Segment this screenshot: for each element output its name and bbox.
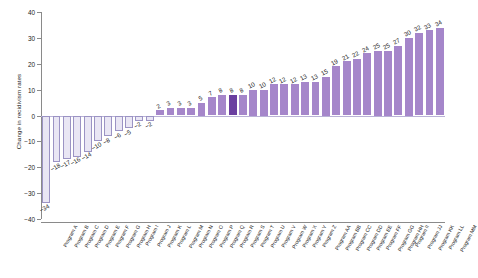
bar[interactable]: [353, 59, 361, 116]
bar[interactable]: [73, 116, 81, 157]
bar[interactable]: [125, 116, 133, 129]
bar-slot[interactable]: 33: [424, 12, 434, 219]
bar-value-label: 32: [413, 23, 422, 33]
bar-value-label: 2: [155, 102, 161, 110]
bar-slot[interactable]: −2: [134, 12, 144, 219]
bar[interactable]: [104, 116, 112, 137]
y-tick-label: −30: [24, 190, 35, 197]
bar-slot[interactable]: 22: [352, 12, 362, 219]
bar-slot[interactable]: 25: [372, 12, 382, 219]
bar[interactable]: [156, 110, 164, 115]
bar-value-label: 25: [371, 42, 380, 52]
bar-slot[interactable]: 12: [269, 12, 279, 219]
bar-slot[interactable]: 34: [435, 12, 445, 219]
y-axis-title: Change in recidivism rates: [15, 42, 22, 182]
bar-slot[interactable]: 24: [362, 12, 372, 219]
bar-slot[interactable]: 3: [186, 12, 196, 219]
bar-slot[interactable]: −34: [41, 12, 51, 219]
bar-value-label: 7: [207, 89, 213, 97]
bar-slot[interactable]: −14: [82, 12, 92, 219]
bar-slot[interactable]: 8: [217, 12, 227, 219]
bar-value-label: 30: [402, 29, 411, 39]
bar[interactable]: [218, 95, 226, 116]
bar-slot[interactable]: 30: [404, 12, 414, 219]
bar[interactable]: [436, 28, 444, 116]
bar-slot[interactable]: 10: [259, 12, 269, 219]
bar-slot[interactable]: 7: [207, 12, 217, 219]
bar[interactable]: [312, 82, 320, 116]
bar-slot[interactable]: 27: [393, 12, 403, 219]
bar-slot[interactable]: −2: [145, 12, 155, 219]
bar-slot[interactable]: 15: [321, 12, 331, 219]
bar[interactable]: [63, 116, 71, 160]
bar-value-label: 10: [247, 80, 256, 90]
bar-slot[interactable]: 19: [331, 12, 341, 219]
bar-slot[interactable]: 21: [341, 12, 351, 219]
bar-slot[interactable]: −18: [51, 12, 61, 219]
bar-slot[interactable]: 5: [196, 12, 206, 219]
bar-value-label: 3: [186, 99, 192, 107]
bar-slot[interactable]: 13: [300, 12, 310, 219]
bar-value-label: 21: [340, 52, 349, 62]
bar[interactable]: [239, 95, 247, 116]
bar[interactable]: [415, 33, 423, 116]
bar-slot[interactable]: 10: [248, 12, 258, 219]
bar[interactable]: [343, 61, 351, 115]
bar[interactable]: [208, 97, 216, 115]
bar-value-label: −2: [143, 120, 153, 130]
bar[interactable]: [229, 95, 237, 116]
bar-slot[interactable]: −10: [93, 12, 103, 219]
bar-slot[interactable]: 2: [155, 12, 165, 219]
bar[interactable]: [301, 82, 309, 116]
bar-slot[interactable]: 8: [227, 12, 237, 219]
bar[interactable]: [94, 116, 102, 142]
bars-layer: −34−18−17−16−14−10−8−6−5−2−2233357888101…: [41, 12, 445, 219]
x-axis-line: [41, 222, 445, 223]
bar-slot[interactable]: −6: [114, 12, 124, 219]
bar[interactable]: [426, 30, 434, 115]
y-tick-mark: [37, 219, 41, 220]
bar[interactable]: [167, 108, 175, 116]
bar-slot[interactable]: 32: [414, 12, 424, 219]
bar[interactable]: [332, 66, 340, 115]
bar[interactable]: [374, 51, 382, 116]
bar[interactable]: [198, 103, 206, 116]
bar[interactable]: [384, 51, 392, 116]
y-tick-label: 30: [28, 34, 35, 41]
bar-slot[interactable]: 8: [238, 12, 248, 219]
bar[interactable]: [177, 108, 185, 116]
bar-slot[interactable]: −8: [103, 12, 113, 219]
bar[interactable]: [405, 38, 413, 116]
y-tick-label: 20: [28, 60, 35, 67]
bar-slot[interactable]: 13: [310, 12, 320, 219]
y-tick-label: 10: [28, 86, 35, 93]
bar-slot[interactable]: −16: [72, 12, 82, 219]
bar-value-label: −6: [112, 131, 122, 141]
bar[interactable]: [115, 116, 123, 132]
bar[interactable]: [322, 77, 330, 116]
bar-value-label: 22: [350, 49, 359, 59]
bar-slot[interactable]: −17: [62, 12, 72, 219]
bar-slot[interactable]: 12: [279, 12, 289, 219]
bar-value-label: 12: [268, 75, 277, 85]
bar[interactable]: [394, 46, 402, 116]
bar[interactable]: [280, 84, 288, 115]
bar[interactable]: [270, 84, 278, 115]
bar[interactable]: [260, 90, 268, 116]
bar-slot[interactable]: 3: [176, 12, 186, 219]
bar-slot[interactable]: 3: [165, 12, 175, 219]
bar-slot[interactable]: 12: [290, 12, 300, 219]
bar-value-label: 3: [176, 99, 182, 107]
bar-value-label: 3: [165, 99, 171, 107]
bar[interactable]: [53, 116, 61, 163]
bar-value-label: 8: [217, 86, 223, 94]
bar[interactable]: [42, 116, 50, 204]
bar-slot[interactable]: −5: [124, 12, 134, 219]
bar-slot[interactable]: 25: [383, 12, 393, 219]
bar-value-label: 13: [309, 73, 318, 83]
bar[interactable]: [291, 84, 299, 115]
y-tick-label: 0: [31, 112, 35, 119]
bar[interactable]: [187, 108, 195, 116]
bar[interactable]: [363, 53, 371, 115]
bar[interactable]: [249, 90, 257, 116]
